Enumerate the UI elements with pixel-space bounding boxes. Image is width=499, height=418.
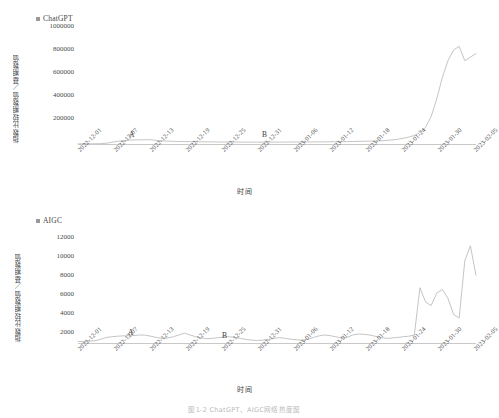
y-tick-label: 1000000 xyxy=(20,22,74,30)
x-axis-title: 时间 xyxy=(237,186,252,196)
y-tick-label: 8000 xyxy=(22,271,74,279)
legend-swatch-icon xyxy=(36,219,40,223)
annotation-b: B xyxy=(222,331,227,340)
y-tick-label: 4000 xyxy=(22,309,74,317)
y-tick-label: 400000 xyxy=(20,91,74,99)
y-tick-label: 10000 xyxy=(22,252,74,260)
legend-swatch-icon xyxy=(36,17,40,21)
x-tick-label: 2023-02-05 xyxy=(472,126,499,153)
y-tick-label: 800000 xyxy=(20,45,74,53)
y-tick-label: 12000 xyxy=(22,233,74,241)
chart-panel-aigc: AIGC 指数比较期数值／基期数值 12000 10000 8000 6000 … xyxy=(0,200,489,400)
chart-panel-chatgpt: ChatGPT 指数比较期数值／基期数值 1000000 800000 6000… xyxy=(0,0,489,205)
y-tick-label: 600000 xyxy=(20,68,74,76)
figure-caption: 图1-2 ChatGPT、AIGC网络热度图 xyxy=(0,404,489,414)
x-axis-title: 时间 xyxy=(237,384,252,394)
y-tick-label: 6000 xyxy=(22,290,74,298)
y-tick-label: 200000 xyxy=(20,114,74,122)
x-axis-line xyxy=(78,343,476,344)
y-tick-label: 2000 xyxy=(22,328,74,336)
x-axis-line xyxy=(78,144,476,145)
legend-aigc: AIGC xyxy=(36,216,62,225)
legend-label: AIGC xyxy=(43,216,62,225)
x-tick-label: 2023-02-05 xyxy=(472,325,499,352)
